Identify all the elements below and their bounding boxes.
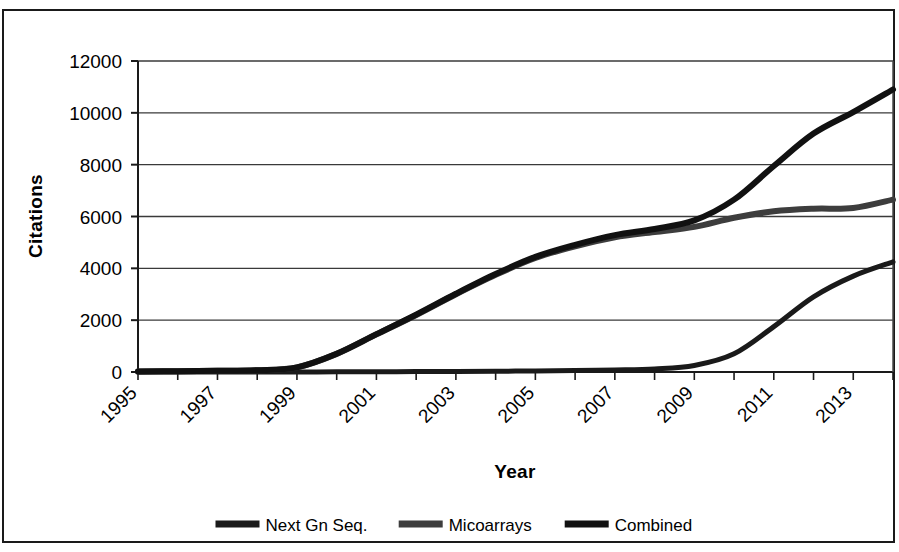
x-axis-tick-labels: 1995199719992001200320052007200920112013 [96, 382, 856, 427]
y-axis-title: Citations [25, 174, 46, 258]
series-line-micoarrays [138, 200, 893, 372]
y-axis-tick-label: 6000 [80, 207, 122, 228]
x-axis-tick-label: 1999 [255, 382, 300, 427]
series-line-combined [138, 90, 893, 372]
legend-label-next-gn-seq: Next Gn Seq. [266, 516, 368, 535]
x-axis-tick-label: 2013 [811, 382, 856, 427]
x-axis-tick-label: 2009 [652, 382, 697, 427]
y-axis-tick-labels: 020004000600080001000012000 [69, 51, 122, 383]
x-axis-tick-label: 2011 [733, 382, 777, 426]
citations-line-chart: 020004000600080001000012000 199519971999… [0, 0, 899, 552]
x-axis-title: Year [494, 461, 536, 482]
legend-label-combined: Combined [615, 516, 693, 535]
legend-label-micoarrays: Micoarrays [449, 516, 532, 535]
data-series-group [138, 90, 893, 372]
figure-container: 020004000600080001000012000 199519971999… [0, 0, 899, 552]
y-axis-tick-label: 10000 [69, 103, 122, 124]
y-axis-ticks [131, 61, 138, 372]
chart-legend: Next Gn Seq.MicoarraysCombined [216, 516, 693, 535]
x-axis-tick-label: 2003 [414, 382, 459, 427]
y-gridlines [138, 61, 893, 320]
x-axis-tick-label: 2005 [493, 382, 538, 427]
y-axis-tick-label: 2000 [80, 310, 122, 331]
x-axis-tick-label: 1997 [176, 382, 221, 427]
series-line-next-gn-seq [138, 262, 893, 372]
y-axis-tick-label: 8000 [80, 155, 122, 176]
x-axis-tick-label: 1995 [96, 382, 141, 427]
y-axis-tick-label: 12000 [69, 51, 122, 72]
x-axis-tick-label: 2001 [335, 382, 380, 427]
x-axis-tick-label: 2007 [573, 382, 618, 427]
y-axis-tick-label: 4000 [80, 258, 122, 279]
y-axis-tick-label: 0 [111, 362, 122, 383]
